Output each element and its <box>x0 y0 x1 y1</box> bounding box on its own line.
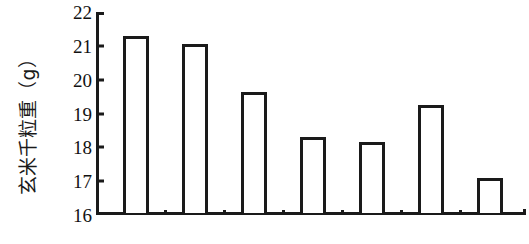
x-tick-mark <box>459 210 462 215</box>
x-tick-mark <box>341 210 344 215</box>
bar <box>182 44 208 213</box>
bar <box>477 178 503 213</box>
y-tick-mark <box>96 78 104 81</box>
x-tick-mark <box>282 210 285 215</box>
y-tick-label: 17 <box>52 172 92 191</box>
y-axis-tick-labels: 22212019181716 <box>50 0 92 244</box>
y-tick-label: 18 <box>52 138 92 157</box>
y-tick-mark <box>96 112 104 115</box>
y-tick-label: 19 <box>52 104 92 123</box>
plot-area <box>96 10 526 216</box>
y-axis-top-cap <box>96 12 104 15</box>
y-tick-label: 20 <box>52 70 92 89</box>
y-tick-label: 21 <box>52 36 92 55</box>
y-axis-title: 玄米千粒重（g） <box>19 49 38 194</box>
x-tick-mark <box>223 210 226 215</box>
y-tick-mark <box>96 180 104 183</box>
chart-figure: 玄米千粒重（g） 22212019181716 <box>0 0 529 244</box>
bar <box>241 92 267 213</box>
x-axis-end-cap <box>523 209 526 215</box>
y-tick-label: 16 <box>52 206 92 225</box>
bar <box>418 105 444 213</box>
y-tick-mark <box>96 44 104 47</box>
bar <box>359 142 385 213</box>
bar <box>123 36 149 213</box>
bar <box>300 137 326 213</box>
y-tick-mark <box>96 146 104 149</box>
y-tick-label: 22 <box>52 3 92 22</box>
y-axis-title-container: 玄米千粒重（g） <box>0 0 56 244</box>
x-tick-mark <box>400 210 403 215</box>
x-tick-mark <box>164 210 167 215</box>
